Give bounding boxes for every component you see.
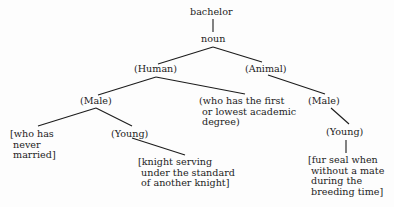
- node-bachelor: bachelor: [190, 7, 233, 18]
- edge-male-nevermarried: [38, 108, 96, 126]
- edge-animal-male: [268, 75, 325, 94]
- edge-animalmale-young: [331, 108, 349, 124]
- edge-human-male: [98, 77, 156, 95]
- node-knight: [knight serving under the standard of an…: [138, 157, 235, 189]
- edge-noun-human: [158, 47, 213, 64]
- node-noun: noun: [201, 34, 225, 45]
- node-never-married: [who has never married]: [10, 129, 56, 161]
- node-human-young: (Young): [111, 129, 148, 140]
- node-human: (Human): [134, 64, 177, 75]
- node-animal: (Animal): [245, 64, 287, 75]
- node-human-male: (Male): [80, 96, 112, 107]
- node-animal-male: (Male): [308, 96, 340, 107]
- node-fur-seal: [fur seal when without a mate during the…: [308, 155, 384, 197]
- node-academic-degree: (who has the first or lowest academic de…: [199, 96, 296, 128]
- edge-human-academic: [156, 77, 245, 94]
- edge-noun-animal: [213, 47, 262, 62]
- node-animal-young: (Young): [326, 127, 363, 138]
- edge-young-knight: [132, 138, 185, 155]
- edge-male-young: [96, 108, 132, 126]
